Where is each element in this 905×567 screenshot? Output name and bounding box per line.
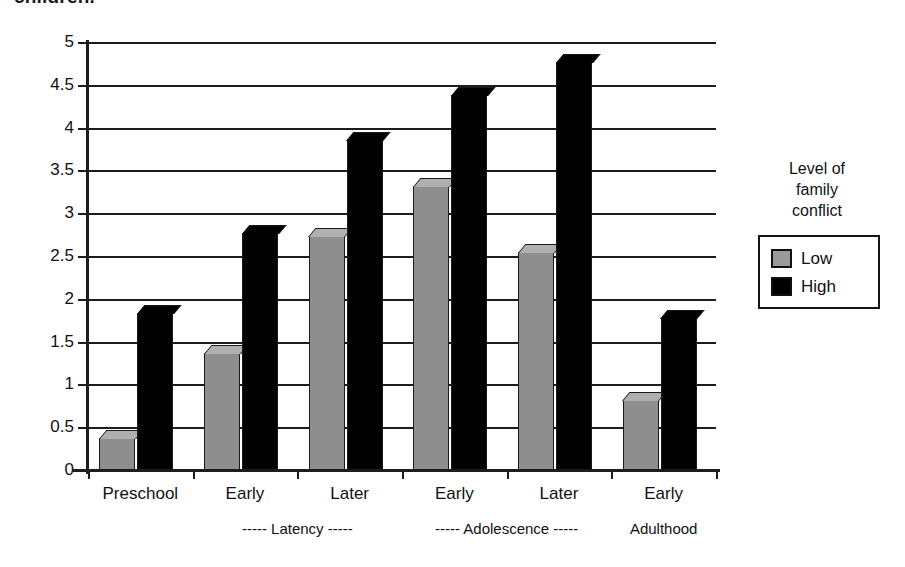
x-axis-group-label-1: ----- Adolescence ----- xyxy=(402,520,611,537)
bar-high-4 xyxy=(556,62,592,470)
x-axis-tick xyxy=(402,470,404,479)
bar-low-1 xyxy=(204,353,240,470)
bar-chart: 54.543.532.521.510.50 PreschoolEarlyLate… xyxy=(0,0,730,567)
y-axis-tick xyxy=(78,384,88,386)
legend-item-low: Low xyxy=(771,249,868,268)
legend-box: Low High xyxy=(758,235,880,309)
x-axis-label-2: Later xyxy=(297,484,402,504)
bar-low-3 xyxy=(413,186,449,470)
y-axis-tick-label: 5 xyxy=(14,32,74,52)
legend-title-line-3: conflict xyxy=(742,200,892,221)
y-axis-tick xyxy=(78,427,88,429)
x-axis-tick xyxy=(297,470,299,479)
bar-top-face xyxy=(451,87,496,96)
y-axis-tick xyxy=(78,170,88,172)
x-axis-group-label-0: ----- Latency ----- xyxy=(193,520,402,537)
bar-high-1 xyxy=(242,233,278,470)
y-axis-tick-label: 2.5 xyxy=(14,246,74,266)
x-axis-label-4: Later xyxy=(507,484,612,504)
y-axis-tick xyxy=(78,342,88,344)
x-axis-label-0: Preschool xyxy=(88,484,193,504)
y-axis-tick-label: 3.5 xyxy=(14,160,74,180)
bar-top-face xyxy=(556,54,601,63)
legend-item-high: High xyxy=(771,277,868,296)
y-axis-tick xyxy=(78,128,88,130)
bar-high-5 xyxy=(661,318,697,470)
y-axis-tick xyxy=(78,256,88,258)
x-axis-tick xyxy=(193,470,195,479)
x-axis-group-label-2: Adulthood xyxy=(611,520,716,537)
bar-top-face xyxy=(660,310,705,319)
bar-low-4 xyxy=(518,252,554,470)
x-axis-label-3: Early xyxy=(402,484,507,504)
bar-low-5 xyxy=(623,400,659,470)
bar-low-2 xyxy=(309,236,345,470)
y-axis-tick-label: 0 xyxy=(14,460,74,480)
x-axis-label-5: Early xyxy=(611,484,716,504)
x-axis-tick xyxy=(507,470,509,479)
x-axis-group-labels: ----- Latency ---------- Adolescence ---… xyxy=(88,520,716,546)
high-swatch-icon xyxy=(771,277,792,296)
legend-title-line-1: Level of xyxy=(742,158,892,179)
y-axis-labels: 54.543.532.521.510.50 xyxy=(0,42,74,470)
y-axis-tick-label: 3 xyxy=(14,203,74,223)
y-axis-tick xyxy=(78,470,88,472)
low-swatch-icon xyxy=(771,249,792,268)
legend-title: Level of family conflict xyxy=(742,158,892,221)
legend-label-high: High xyxy=(801,278,836,295)
y-axis-tick-label: 4 xyxy=(14,118,74,138)
x-axis-tick xyxy=(88,470,90,479)
y-axis-tick xyxy=(78,85,88,87)
y-axis-tick xyxy=(78,42,88,44)
legend-title-line-2: family xyxy=(742,179,892,200)
y-axis-tick-label: 2 xyxy=(14,289,74,309)
y-axis-tick-label: 1.5 xyxy=(14,332,74,352)
legend: Level of family conflict Low High xyxy=(742,158,892,309)
y-axis-tick-label: 0.5 xyxy=(14,417,74,437)
bar-top-face xyxy=(242,225,287,234)
y-axis-tick xyxy=(78,299,88,301)
x-axis-tick xyxy=(716,470,718,479)
legend-label-low: Low xyxy=(801,250,832,267)
bar-high-3 xyxy=(451,95,487,470)
y-axis-tick-label: 4.5 xyxy=(14,75,74,95)
x-axis-label-1: Early xyxy=(193,484,298,504)
y-axis-tick-label: 1 xyxy=(14,374,74,394)
bar-high-2 xyxy=(347,140,383,470)
bar-low-0 xyxy=(99,438,135,470)
x-axis-tick xyxy=(611,470,613,479)
bar-top-face xyxy=(346,132,391,141)
y-axis-tick xyxy=(78,213,88,215)
x-axis-category-labels: PreschoolEarlyLaterEarlyLaterEarly xyxy=(88,484,716,510)
bar-high-0 xyxy=(137,313,173,471)
bar-top-face xyxy=(137,305,182,314)
bars-container xyxy=(88,42,716,470)
